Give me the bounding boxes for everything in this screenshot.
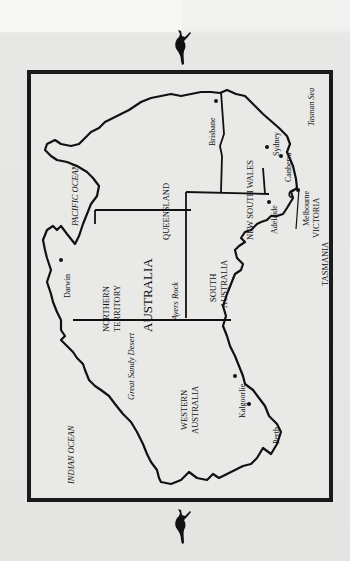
city-label-canberra: Canberra	[285, 153, 293, 182]
city-label-brisbane: Brisbane	[209, 118, 217, 146]
kangaroo-icon	[170, 28, 192, 66]
city-label-perth: Perth	[273, 427, 281, 444]
city-label-adelaide: Adelaide	[271, 205, 279, 234]
ocean-label-pacific: PACIFIC OCEAN	[71, 165, 80, 226]
state-label-wa-line1: WESTERN	[180, 390, 189, 430]
country-label-australia: AUSTRALIA	[141, 258, 154, 332]
ocean-label-indian: INDIAN OCEAN	[67, 426, 76, 484]
state-label-victoria: VICTORIA	[312, 198, 321, 238]
state-label-nt-line1: NORTHERN	[102, 286, 111, 332]
city-label-darwin: Darwin	[64, 274, 72, 298]
landmark-label-ayers-rock: Ayers Rock	[171, 282, 180, 320]
state-label-nsw: NEW SOUTH WALES	[246, 160, 255, 240]
city-label-kalgoorlie: Kalgoorlie	[239, 384, 247, 418]
state-label-sa-line1: SOUTH	[209, 274, 218, 302]
page-fold	[0, 0, 182, 32]
state-label-sa-line2: AUSTRALIA	[220, 260, 229, 308]
sea-label-tasman: Tasman Sea	[308, 88, 316, 126]
map-frame: PACIFIC OCEAN INDIAN OCEAN Tasman Sea QU…	[27, 70, 333, 502]
state-label-wa-line2: AUSTRALIA	[191, 386, 200, 434]
state-label-nt-line2: TERRITORY	[113, 285, 122, 332]
kangaroo-icon	[170, 507, 192, 545]
state-label-tasmania: TASMANIA	[321, 242, 330, 286]
city-label-sydney: Sydney	[273, 132, 281, 156]
city-label-melbourne: Melbourne	[303, 191, 311, 226]
landmark-label-great-sandy-desert: Great Sandy Desert	[127, 333, 136, 400]
state-label-queensland: QUEENSLAND	[162, 183, 171, 240]
